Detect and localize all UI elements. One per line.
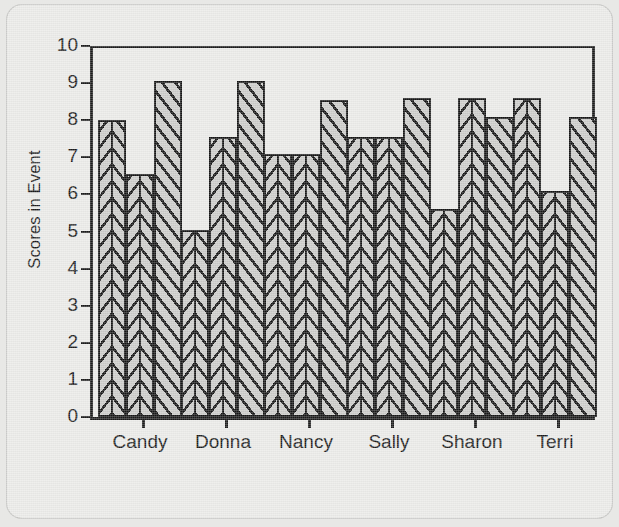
x-axis-tick — [557, 417, 560, 428]
bar-group — [181, 4, 265, 417]
bar[interactable] — [292, 154, 320, 417]
x-axis-tick — [308, 417, 311, 428]
y-axis-tick — [81, 379, 90, 381]
y-axis-tick-label: 6 — [32, 183, 78, 202]
bar-group — [513, 4, 597, 417]
bar[interactable] — [181, 230, 209, 417]
bar[interactable] — [154, 81, 182, 417]
bar[interactable] — [347, 137, 375, 417]
y-axis-tick — [81, 305, 90, 307]
y-axis-tick-label: 10 — [32, 35, 78, 54]
bar-seam — [277, 156, 279, 415]
y-axis-tick-label: 8 — [32, 109, 78, 128]
x-axis-tick — [474, 417, 477, 428]
x-axis-tick — [225, 417, 228, 428]
y-axis-tick-label: 7 — [32, 146, 78, 165]
y-axis-tick — [81, 82, 90, 84]
y-axis-tick — [81, 416, 90, 418]
bar-seam — [194, 232, 196, 415]
y-axis-tick — [81, 45, 90, 47]
bar-group — [264, 4, 348, 417]
y-axis-tick-label: 5 — [32, 221, 78, 240]
bar[interactable] — [320, 100, 348, 417]
x-axis-tick — [142, 417, 145, 428]
bar-group — [430, 4, 514, 417]
bar[interactable] — [513, 98, 541, 417]
y-axis-tick — [81, 193, 90, 195]
y-axis-ticks: 109876543210 — [28, 4, 78, 519]
bar[interactable] — [126, 174, 154, 417]
chart-card: Scores in Event 109876543210 CandyDonnaN… — [6, 4, 613, 519]
x-axis-line — [90, 417, 595, 420]
bar-group — [347, 4, 431, 417]
y-axis-tick — [81, 268, 90, 270]
bar[interactable] — [237, 81, 265, 417]
y-axis-tick-label: 1 — [32, 369, 78, 388]
bar-seam — [554, 193, 556, 415]
bar[interactable] — [403, 98, 431, 417]
bar-seam — [471, 100, 473, 415]
bar-seam — [360, 139, 362, 415]
y-axis-tick-label: 4 — [32, 258, 78, 277]
bar[interactable] — [375, 137, 403, 417]
bar-seam — [111, 122, 113, 415]
bar[interactable] — [486, 117, 514, 418]
bar-group — [98, 4, 182, 417]
bar[interactable] — [209, 137, 237, 417]
bar-seam — [443, 211, 445, 415]
x-axis-tick-label: Terri — [495, 432, 613, 453]
y-axis-tick — [81, 119, 90, 121]
bar-seam — [526, 100, 528, 415]
y-axis-tick-label: 2 — [32, 332, 78, 351]
bar[interactable] — [264, 154, 292, 417]
y-axis-tick-label: 3 — [32, 295, 78, 314]
x-axis-tick — [391, 417, 394, 428]
bar-seam — [222, 139, 224, 415]
bar-seam — [388, 139, 390, 415]
y-axis-tick-label: 0 — [32, 406, 78, 425]
bar[interactable] — [98, 120, 126, 417]
y-axis-tick — [81, 342, 90, 344]
bar[interactable] — [569, 117, 597, 418]
y-axis-line — [90, 46, 93, 420]
bar[interactable] — [430, 209, 458, 417]
bar[interactable] — [541, 191, 569, 417]
y-axis-tick — [81, 156, 90, 158]
bar-seam — [139, 176, 141, 415]
y-axis-tick — [81, 231, 90, 233]
bar-seam — [305, 156, 307, 415]
y-axis-tick-label: 9 — [32, 72, 78, 91]
bar[interactable] — [458, 98, 486, 417]
